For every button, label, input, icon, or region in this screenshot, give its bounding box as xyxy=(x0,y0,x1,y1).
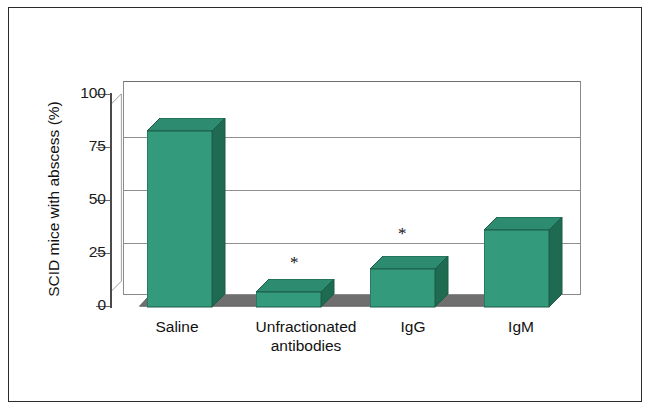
x-label-saline: Saline xyxy=(122,317,232,336)
y-tick-label-25: 25 xyxy=(89,243,106,261)
figure-container: 100 75 50 25 0 SCID mice with abscess (%… xyxy=(0,0,651,412)
bar-saline[interactable] xyxy=(147,118,239,310)
y-tick-labels: 100 75 50 25 0 xyxy=(60,0,106,412)
y-tick-label-0: 0 xyxy=(97,296,106,314)
x-label-igg: IgG xyxy=(358,317,468,336)
x-label-igm: IgM xyxy=(466,317,576,336)
x-label-saline-line1: Saline xyxy=(122,317,232,336)
bar-igg[interactable] xyxy=(370,256,462,326)
y-axis-title: SCID mice with abscess (%) xyxy=(45,69,63,329)
significance-marker-igg: * xyxy=(398,225,407,242)
bar-igm[interactable] xyxy=(484,217,576,327)
x-label-unfractionated-line2: antibodies xyxy=(226,336,386,355)
x-label-igg-line1: IgG xyxy=(358,317,468,336)
significance-marker-unfractionated: * xyxy=(290,254,299,271)
chart-plot-area: 100 75 50 25 0 SCID mice with abscess (%… xyxy=(0,0,651,412)
y-axis-line xyxy=(110,93,112,308)
x-label-igm-line1: IgM xyxy=(466,317,576,336)
y-tick-label-75: 75 xyxy=(89,137,106,155)
y-tick-label-50: 50 xyxy=(89,190,106,208)
chart-left-wall xyxy=(110,81,124,308)
y-tick-label-100: 100 xyxy=(80,84,106,102)
